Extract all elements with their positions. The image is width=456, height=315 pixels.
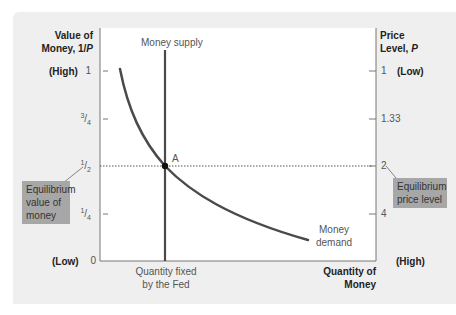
- tick-label-1-4: 1/4: [71, 207, 91, 221]
- x-axis-title: Quantity of Money: [310, 265, 376, 291]
- right-axis-title: Price Level, P: [380, 29, 418, 55]
- tick-label-1-2: 1/2: [71, 159, 91, 173]
- low-right-label: (Low): [397, 65, 424, 78]
- equilibrium-value-callout: Equilibrium value of money: [22, 181, 70, 224]
- left-axis-title-2: Money, 1/P: [30, 42, 93, 55]
- right-axis-title-line1: Price: [380, 29, 418, 42]
- left-axis-title-line2: Money, 1/: [42, 43, 87, 54]
- point-a-label: A: [172, 152, 179, 165]
- left-axis-title-line1: Value of: [47, 29, 93, 42]
- tick-label-0: 0: [76, 255, 96, 266]
- rtick-label-133: 1.33: [381, 113, 400, 124]
- rtick-label-1: 1: [381, 65, 387, 76]
- right-axis-title-p: P: [411, 43, 418, 54]
- tick-label-1: 1: [71, 65, 91, 76]
- equilibrium-price-callout: Equilibrium price level: [393, 178, 447, 208]
- rtick-label-2: 2: [381, 160, 387, 171]
- low-left-label: (Low): [52, 255, 79, 268]
- money-supply-label: Money supply: [141, 36, 203, 49]
- tick-label-3-4: 3/4: [71, 112, 91, 126]
- left-axis-title-p: P: [86, 43, 93, 54]
- rtick-label-4: 4: [381, 208, 387, 219]
- quantity-fixed-label: Quantity fixed by the Fed: [128, 265, 204, 291]
- high-right-label: (High): [396, 255, 425, 268]
- left-axis-title: Value of: [47, 29, 93, 42]
- price-callout-leader: [386, 166, 396, 178]
- money-demand-label: Money demand: [314, 223, 354, 249]
- equilibrium-point: [162, 163, 168, 169]
- right-axis-title-line2: Level,: [380, 43, 411, 54]
